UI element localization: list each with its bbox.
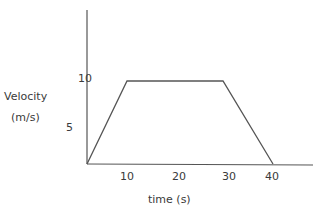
y-tick-5: 5 — [66, 122, 73, 134]
y-axis-label-line2: (m/s) — [11, 112, 40, 124]
velocity-line — [87, 81, 273, 164]
x-axis-label: time (s) — [148, 194, 191, 206]
x-axis — [87, 164, 313, 165]
x-tick-30: 30 — [222, 171, 236, 183]
x-tick-20: 20 — [172, 171, 186, 183]
y-tick-10: 10 — [78, 73, 92, 85]
y-axis-label-line1: Velocity — [4, 91, 47, 103]
x-tick-40: 40 — [265, 171, 279, 183]
x-tick-10: 10 — [120, 171, 134, 183]
